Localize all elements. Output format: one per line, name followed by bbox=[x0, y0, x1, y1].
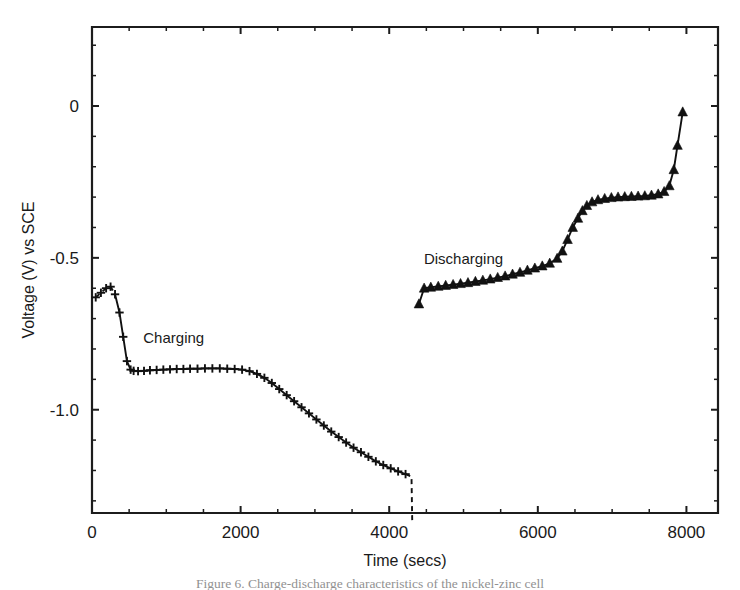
data-point-marker bbox=[558, 246, 568, 255]
data-point-marker bbox=[364, 453, 372, 461]
y-axis-title: Voltage (V) vs SCE bbox=[20, 202, 37, 339]
series-discharging bbox=[414, 107, 687, 308]
data-point-marker bbox=[372, 457, 380, 465]
data-point-marker bbox=[545, 258, 555, 267]
x-tick-label: 6000 bbox=[519, 523, 557, 542]
data-point-marker bbox=[379, 461, 387, 469]
data-point-marker bbox=[568, 222, 578, 231]
x-tick-label: 2000 bbox=[222, 523, 260, 542]
data-point-marker bbox=[357, 448, 365, 456]
data-point-marker bbox=[386, 464, 394, 472]
data-point-marker bbox=[673, 140, 683, 149]
y-tick-label: -0.5 bbox=[50, 249, 79, 268]
data-point-marker bbox=[245, 367, 253, 375]
series-charging bbox=[92, 283, 413, 523]
data-point-marker bbox=[119, 333, 127, 341]
data-point-marker bbox=[253, 370, 261, 378]
data-point-marker bbox=[115, 308, 123, 316]
data-point-marker bbox=[123, 357, 131, 365]
data-point-marker bbox=[563, 234, 573, 243]
data-point-marker bbox=[106, 283, 114, 291]
data-point-marker bbox=[669, 165, 679, 174]
x-tick-label: 0 bbox=[87, 523, 96, 542]
figure-caption: Figure 6. Charge-discharge characteristi… bbox=[0, 574, 740, 590]
data-point-marker bbox=[238, 365, 246, 373]
data-point-marker bbox=[216, 364, 224, 372]
data-point-marker bbox=[414, 299, 424, 308]
data-point-marker bbox=[201, 364, 209, 372]
x-tick-label: 4000 bbox=[370, 523, 408, 542]
x-axis-ticks bbox=[92, 27, 686, 513]
data-point-marker bbox=[208, 364, 216, 372]
data-series-group bbox=[92, 107, 688, 522]
y-tick-label: 0 bbox=[70, 97, 79, 116]
annotation-charging: Charging bbox=[143, 329, 204, 346]
annotation-discharging: Discharging bbox=[424, 250, 503, 267]
y-tick-label: -1.0 bbox=[50, 401, 79, 420]
data-point-marker bbox=[401, 470, 409, 478]
data-point-marker bbox=[223, 365, 231, 373]
figure-container: 02000400060008000 0-0.5-1.0 ChargingDisc… bbox=[0, 0, 740, 590]
data-point-marker bbox=[394, 467, 402, 475]
data-point-marker bbox=[678, 107, 688, 116]
data-point-marker bbox=[193, 365, 201, 373]
chart-canvas: 02000400060008000 0-0.5-1.0 ChargingDisc… bbox=[0, 0, 740, 590]
data-point-marker bbox=[665, 181, 675, 190]
series-annotations: ChargingDischarging bbox=[143, 250, 503, 346]
y-axis-ticks bbox=[92, 45, 718, 501]
plot-frame bbox=[92, 27, 718, 513]
data-point-marker bbox=[186, 365, 194, 373]
data-point-marker bbox=[230, 365, 238, 373]
x-tick-label: 8000 bbox=[668, 523, 706, 542]
x-axis-tick-labels: 02000400060008000 bbox=[87, 523, 705, 542]
x-axis-title: Time (secs) bbox=[364, 552, 447, 569]
data-point-marker bbox=[111, 290, 119, 298]
y-axis-tick-labels: 0-0.5-1.0 bbox=[50, 97, 79, 420]
